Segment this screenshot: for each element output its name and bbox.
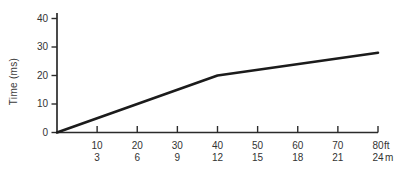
y-tick-label: 0: [20, 128, 48, 138]
x-tick-label-ft: 60: [282, 141, 314, 151]
y-tick-label: 40: [20, 14, 48, 24]
x-tick-label-m: 3: [81, 153, 113, 163]
y-tick-label: 20: [20, 71, 48, 81]
x-tick-label-ft: 70: [322, 141, 354, 151]
x-tick-label-m: 18: [282, 153, 314, 163]
y-tick-label: 10: [20, 99, 48, 109]
x-tick-label-m: 12: [202, 153, 234, 163]
x-axis-unit-m: m: [385, 153, 393, 163]
x-tick-label-ft: 20: [121, 141, 153, 151]
x-tick-label-m: 9: [161, 153, 193, 163]
data-line-time-vs-distance: [57, 53, 378, 133]
x-tick-label-ft: 50: [242, 141, 274, 151]
x-tick-label-ft: 40: [202, 141, 234, 151]
x-tick-label-m: 6: [121, 153, 153, 163]
x-tick-label-m: 21: [322, 153, 354, 163]
chart-figure: Time (ms) 010203040 1020304050607080 369…: [0, 0, 401, 172]
y-tick-label: 30: [20, 42, 48, 52]
x-tick-label-ft: 30: [161, 141, 193, 151]
x-tick-label-ft: 10: [81, 141, 113, 151]
x-tick-label-m: 15: [242, 153, 274, 163]
x-axis-unit-ft: ft: [384, 141, 390, 151]
